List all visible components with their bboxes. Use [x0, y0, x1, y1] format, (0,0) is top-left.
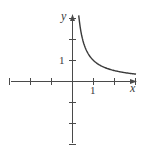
- x-axis-label: x: [129, 81, 136, 95]
- y-axis-label: y: [60, 9, 67, 23]
- axes: [11, 18, 134, 143]
- y-axis-arrowhead-icon: [70, 14, 75, 21]
- y-tick-label-1: 1: [59, 54, 65, 66]
- curve-y-equals-1-over-x: [79, 15, 136, 74]
- function-graph: x y 1 1: [0, 0, 148, 157]
- x-tick-label-1: 1: [90, 84, 96, 96]
